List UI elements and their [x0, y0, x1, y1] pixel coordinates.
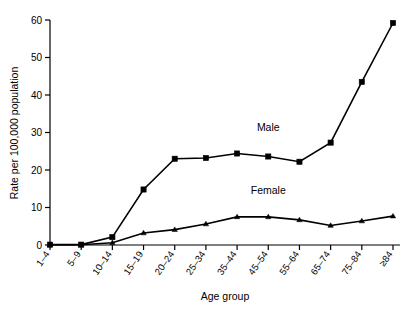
data-point-marker — [266, 154, 271, 159]
data-point-marker — [234, 151, 239, 156]
line-chart: 0102030405060 1–45–910–1415–1920–2425–34… — [0, 0, 412, 309]
y-tick-label: 60 — [31, 15, 43, 26]
data-point-marker — [297, 159, 302, 164]
series-annotation-male: Male — [257, 121, 280, 133]
series-annotation-female: Female — [251, 184, 286, 196]
data-point-marker — [110, 235, 115, 240]
data-point-marker — [390, 20, 395, 25]
y-tick-label: 30 — [31, 127, 43, 138]
figure-container: 0102030405060 1–45–910–1415–1920–2425–34… — [0, 0, 412, 309]
y-tick-label: 40 — [31, 90, 43, 101]
y-tick-label: 20 — [31, 165, 43, 176]
x-axis-title: Age group — [201, 290, 250, 302]
data-point-marker — [328, 140, 333, 145]
y-axis-title: Rate per 100,000 population — [8, 67, 20, 200]
y-tick-label: 10 — [31, 202, 43, 213]
data-point-marker — [141, 187, 146, 192]
y-tick-label: 50 — [31, 52, 43, 63]
data-point-marker — [172, 156, 177, 161]
data-point-marker — [203, 155, 208, 160]
data-point-marker — [359, 79, 364, 84]
